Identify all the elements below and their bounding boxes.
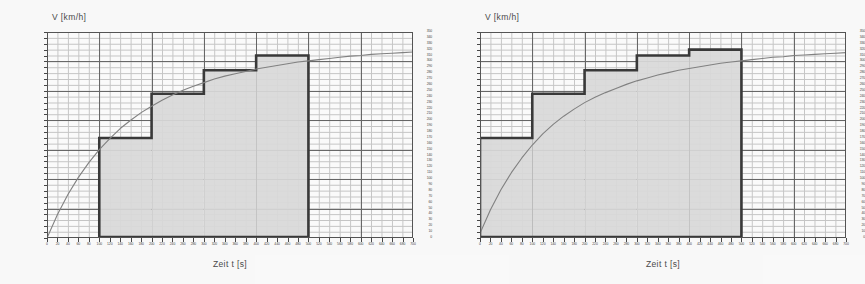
- y-tick-mark: [44, 61, 47, 62]
- y-tick-label: 170: [390, 136, 432, 139]
- y-tick-label: 100: [823, 177, 865, 180]
- x-tick-label: 660: [822, 243, 827, 247]
- y-tick-label: 180: [823, 130, 865, 133]
- x-axis-title: Zeit t [s]: [623, 259, 703, 269]
- x-tick-label: 380: [243, 243, 248, 247]
- y-tick-label: 260: [823, 83, 865, 86]
- y-tick-mark: [477, 138, 480, 139]
- x-tick-label: 700: [843, 243, 848, 247]
- y-tick-mark: [477, 191, 480, 192]
- y-tick-label: 80: [390, 189, 432, 192]
- y-tick-label: 310: [390, 54, 432, 57]
- y-tick-label: 220: [823, 107, 865, 110]
- y-tick-mark: [44, 97, 47, 98]
- y-tick-mark: [477, 179, 480, 180]
- x-tick-label: 40: [66, 243, 70, 247]
- x-tick-label: 180: [138, 243, 143, 247]
- x-tick-label: 360: [233, 243, 238, 247]
- plot-area-right: [480, 32, 846, 238]
- y-tick-label: 50: [390, 207, 432, 210]
- x-tick-label: 120: [107, 243, 112, 247]
- y-tick-mark: [44, 179, 47, 180]
- y-tick-label: 290: [823, 66, 865, 69]
- y-tick-label: 70: [390, 195, 432, 198]
- x-tick-label: 660: [389, 243, 394, 247]
- y-tick-mark: [44, 126, 47, 127]
- y-tick-mark: [44, 114, 47, 115]
- y-tick-mark: [44, 209, 47, 210]
- y-tick-mark: [477, 38, 480, 39]
- y-tick-mark: [477, 61, 480, 62]
- y-tick-mark: [44, 50, 47, 51]
- x-tick-label: 640: [379, 243, 384, 247]
- y-tick-label: 10: [390, 230, 432, 233]
- x-tick-label: 700: [410, 243, 415, 247]
- x-tick-label: 440: [707, 243, 712, 247]
- y-tick-mark: [477, 150, 480, 151]
- x-tick-label: 320: [645, 243, 650, 247]
- x-tick-label: 100: [530, 243, 535, 247]
- x-tick-label: 620: [801, 243, 806, 247]
- x-tick-label: 0: [46, 243, 48, 247]
- figure-container: V [km/h] 0102030405060708090100110120130…: [0, 0, 865, 284]
- y-tick-label: 130: [390, 160, 432, 163]
- y-tick-mark: [477, 50, 480, 51]
- y-tick-mark: [477, 226, 480, 227]
- x-tick-label: 280: [624, 243, 629, 247]
- y-tick-mark: [44, 232, 47, 233]
- y-tick-label: 320: [823, 48, 865, 51]
- y-tick-mark: [477, 132, 480, 133]
- y-tick-label: 160: [823, 142, 865, 145]
- y-tick-mark: [44, 220, 47, 221]
- y-tick-label: 150: [823, 148, 865, 151]
- x-tick-label: 300: [634, 243, 639, 247]
- y-tick-label: 200: [390, 119, 432, 122]
- x-tick-label: 480: [295, 243, 300, 247]
- x-tick-label: 600: [791, 243, 796, 247]
- curve-series-left: [47, 32, 413, 238]
- x-tick-label: 220: [592, 243, 597, 247]
- x-tick-label: 20: [56, 243, 60, 247]
- y-tick-label: 270: [390, 77, 432, 80]
- y-tick-label: 120: [823, 166, 865, 169]
- y-tick-label: 250: [823, 89, 865, 92]
- x-tick-label: 360: [666, 243, 671, 247]
- y-tick-label: 0: [823, 236, 865, 239]
- y-tick-mark: [477, 173, 480, 174]
- y-axis-title: V [km/h]: [52, 12, 86, 22]
- y-tick-mark: [44, 91, 47, 92]
- x-tick-label: 340: [655, 243, 660, 247]
- x-tick-label: 260: [613, 243, 618, 247]
- y-tick-label: 140: [390, 154, 432, 157]
- y-tick-label: 270: [823, 77, 865, 80]
- x-tick-label: 460: [718, 243, 723, 247]
- x-tick-label: 640: [812, 243, 817, 247]
- y-axis-title: V [km/h]: [485, 12, 519, 22]
- y-tick-mark: [477, 167, 480, 168]
- y-tick-label: 60: [390, 201, 432, 204]
- x-axis-title: Zeit t [s]: [190, 259, 270, 269]
- y-tick-label: 60: [823, 201, 865, 204]
- x-tick-label: 40: [499, 243, 503, 247]
- y-tick-mark: [44, 144, 47, 145]
- x-tick-label: 400: [253, 243, 258, 247]
- velocity-curve: [47, 52, 413, 238]
- y-tick-mark: [44, 32, 47, 33]
- y-tick-mark: [477, 56, 480, 57]
- y-tick-label: 280: [390, 71, 432, 74]
- y-tick-label: 170: [823, 136, 865, 139]
- y-tick-mark: [44, 203, 47, 204]
- y-tick-label: 240: [823, 95, 865, 98]
- y-tick-label: 80: [823, 189, 865, 192]
- y-tick-label: 210: [823, 113, 865, 116]
- y-tick-label: 300: [823, 60, 865, 63]
- y-tick-mark: [44, 191, 47, 192]
- y-tick-label: 90: [823, 183, 865, 186]
- y-tick-mark: [477, 197, 480, 198]
- y-tick-label: 350: [390, 30, 432, 33]
- y-tick-label: 20: [390, 225, 432, 228]
- x-tick-label: 100: [97, 243, 102, 247]
- x-tick-label: 460: [285, 243, 290, 247]
- y-tick-label: 330: [390, 42, 432, 45]
- x-tick-label: 340: [222, 243, 227, 247]
